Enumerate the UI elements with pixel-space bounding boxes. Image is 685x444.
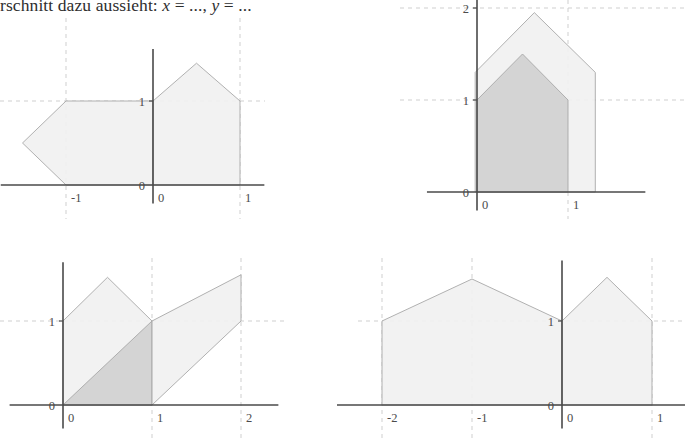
- caption-eq-1: = ...,: [170, 0, 211, 15]
- figure-1-container: 01-101: [0, 18, 265, 223]
- x-tick-label: 0: [68, 411, 74, 425]
- x-tick-label: -1: [71, 191, 81, 205]
- caption-eq-2: = ...: [219, 0, 251, 15]
- shape-house-right: [153, 63, 240, 185]
- x-tick-label: 0: [567, 411, 573, 425]
- caption-prefix: ​rschnitt dazu aussieht:: [0, 0, 162, 15]
- x-tick-label: 1: [573, 198, 579, 212]
- shape-house-right: [562, 277, 652, 405]
- figure-2-container: 01201: [400, 0, 685, 223]
- x-tick-label: 0: [158, 191, 164, 205]
- x-tick-label: 1: [657, 411, 663, 425]
- x-tick-label: -2: [387, 411, 397, 425]
- figure-4-plot: 01-2-101: [358, 258, 685, 444]
- figure-page: ​rschnitt dazu aussieht: x = ..., y = ..…: [0, 0, 685, 444]
- shape-parallelogram-right: [152, 275, 241, 405]
- x-tick-label: 1: [157, 411, 163, 425]
- y-tick-label: 1: [463, 94, 469, 108]
- figure-3-plot: 01012: [0, 258, 285, 444]
- x-tick-label: -1: [477, 411, 487, 425]
- x-tick-label: 1: [245, 191, 251, 205]
- caption-var-x: x: [162, 0, 170, 15]
- shape-arrow-pentagon-left: [23, 101, 154, 185]
- x-tick-label: 2: [246, 411, 252, 425]
- y-tick-label: 0: [139, 179, 145, 193]
- figure-4-container: 01-2-101: [358, 258, 685, 444]
- shape-house-wide-left: [382, 279, 562, 405]
- figure-3-container: 01012: [0, 258, 285, 444]
- figure-1-plot: 01-101: [0, 18, 265, 223]
- y-tick-label: 1: [49, 315, 55, 329]
- y-tick-label: 2: [463, 2, 469, 16]
- x-tick-label: 0: [482, 198, 488, 212]
- y-tick-label: 0: [548, 399, 554, 413]
- y-tick-label: 1: [548, 315, 554, 329]
- y-tick-label: 1: [139, 95, 145, 109]
- y-tick-label: 0: [49, 399, 55, 413]
- y-tick-label: 0: [463, 186, 469, 200]
- figure-2-plot: 01201: [400, 0, 685, 223]
